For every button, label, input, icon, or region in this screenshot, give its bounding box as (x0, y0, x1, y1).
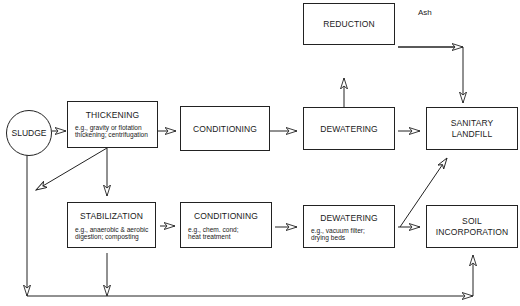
node-reduction-label: REDUCTION (304, 19, 394, 29)
edge-label-ash: Ash (418, 8, 432, 17)
node-sanitary-landfill: SANITARY LANDFILL (426, 107, 518, 150)
node-thickening-label: THICKENING (68, 110, 157, 120)
node-conditioning-top-label: CONDITIONING (181, 124, 269, 134)
node-reduction: REDUCTION (303, 3, 395, 45)
node-conditioning-top: CONDITIONING (180, 106, 270, 151)
node-sanitary-landfill-label-2: LANDFILL (427, 129, 517, 139)
node-dewatering-bottom-label: DEWATERING (304, 213, 394, 223)
node-stabilization-example-1: e.g., anaerobic & aerobic (75, 226, 153, 233)
node-sanitary-landfill-label-1: SANITARY (427, 118, 517, 128)
node-sludge: SLUDGE (6, 110, 52, 156)
node-conditioning-bottom: CONDITIONING e.g., chem. cond; heat trea… (180, 202, 272, 248)
node-stabilization-label: STABILIZATION (68, 211, 155, 221)
node-thickening-example-1: e.g., gravity or flotation (75, 124, 155, 131)
node-thickening: THICKENING e.g., gravity or flotation th… (67, 101, 158, 148)
node-conditioning-bottom-example-1: e.g., chem. cond; (188, 226, 269, 233)
node-conditioning-bottom-example-2: heat treatment (188, 233, 269, 240)
node-conditioning-bottom-label: CONDITIONING (181, 211, 271, 221)
node-soil-incorporation-label-2: INCORPORATION (427, 227, 517, 237)
node-stabilization: STABILIZATION e.g., anaerobic & aerobic … (67, 202, 156, 248)
node-dewatering-top-label: DEWATERING (304, 124, 394, 134)
node-sludge-label: SLUDGE (12, 128, 47, 138)
node-soil-incorporation: SOIL INCORPORATION (426, 205, 518, 248)
connector-lines (0, 0, 520, 306)
node-dewatering-bottom: DEWATERING e.g., vacuum filter; drying b… (303, 205, 395, 248)
node-soil-incorporation-label-1: SOIL (427, 216, 517, 226)
node-stabilization-example-2: digestion; composting (75, 233, 153, 240)
node-dewatering-bottom-example-1: e.g., vacuum filter; (311, 227, 392, 234)
node-thickening-example-2: thickening; centrifugation (75, 131, 155, 138)
node-dewatering-bottom-example-2: drying beds (311, 234, 392, 241)
node-dewatering-top: DEWATERING (303, 107, 395, 150)
